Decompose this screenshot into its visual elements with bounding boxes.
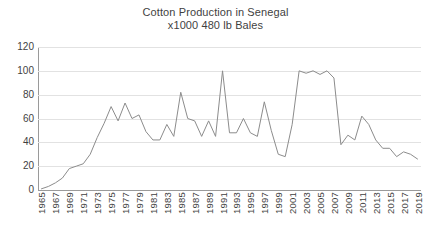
x-tick-label-1997: 1997: [259, 192, 270, 214]
chart-title-block: Cotton Production in Senegal x1000 480 l…: [0, 6, 431, 32]
x-tick-label-1999: 1999: [273, 192, 284, 214]
x-tick-label-1991: 1991: [218, 192, 229, 214]
y-axis-labels: 020406080100120: [0, 0, 34, 237]
x-tick-label-1969: 1969: [64, 192, 75, 214]
x-tick-label-1985: 1985: [176, 192, 187, 214]
y-tick-label-80: 80: [0, 90, 34, 100]
x-tick-label-2011: 2011: [357, 192, 368, 213]
y-tick-label-0: 0: [0, 185, 34, 195]
series-svg: [38, 47, 421, 190]
x-tick-label-2009: 2009: [343, 192, 354, 214]
y-tick-label-120: 120: [0, 42, 34, 52]
y-tick-label-20: 20: [0, 161, 34, 171]
y-tick-label-100: 100: [0, 66, 34, 76]
x-tick-label-2005: 2005: [315, 192, 326, 214]
x-tick-label-1995: 1995: [245, 192, 256, 214]
x-tick-label-1977: 1977: [120, 192, 131, 214]
x-tick-label-1971: 1971: [78, 192, 89, 214]
x-tick-label-1989: 1989: [204, 192, 215, 214]
plot-area: [38, 47, 421, 190]
x-tick-label-1987: 1987: [190, 192, 201, 214]
x-tick-label-2007: 2007: [329, 192, 340, 214]
gridline-y-0: [38, 190, 421, 191]
x-tick-label-1981: 1981: [148, 192, 159, 214]
x-tick-label-1983: 1983: [162, 192, 173, 214]
x-tick-label-2015: 2015: [385, 192, 396, 214]
chart-subtitle: x1000 480 lb Bales: [0, 19, 431, 32]
x-tick-label-1979: 1979: [134, 192, 145, 214]
x-axis-labels: 1965196719691971197319751977197919811983…: [38, 192, 421, 237]
x-tick-label-2003: 2003: [301, 192, 312, 214]
y-tick-label-60: 60: [0, 114, 34, 124]
x-tick-label-2019: 2019: [413, 192, 424, 214]
chart-container: Cotton Production in Senegal x1000 480 l…: [0, 0, 431, 237]
x-tick-label-2001: 2001: [287, 192, 298, 214]
x-tick-label-1967: 1967: [50, 192, 61, 214]
x-tick-label-2017: 2017: [399, 192, 410, 214]
x-tick-label-1993: 1993: [231, 192, 242, 214]
chart-title: Cotton Production in Senegal: [0, 6, 431, 19]
x-tick-label-2013: 2013: [371, 192, 382, 214]
x-tick-label-1965: 1965: [36, 192, 47, 214]
line-series-cotton-production: [41, 71, 417, 189]
y-tick-label-40: 40: [0, 137, 34, 147]
x-tick-label-1973: 1973: [92, 192, 103, 214]
x-tick-label-1975: 1975: [106, 192, 117, 214]
